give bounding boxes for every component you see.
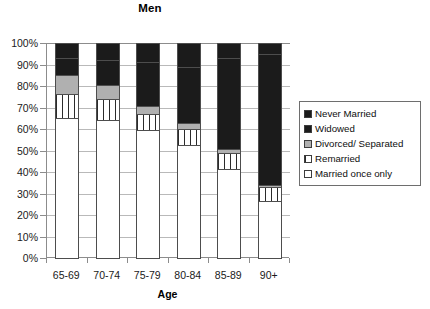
stacked-bar: [177, 43, 201, 258]
x-axis-tick: [127, 258, 128, 263]
legend-item-label: Remarried: [315, 154, 360, 164]
y-axis-label: 50%: [0, 145, 38, 157]
bar-segment: [258, 43, 282, 55]
x-axis-tick: [87, 258, 88, 263]
legend-item-label: Divorced/ Separated: [315, 139, 403, 149]
bar-segment: [177, 67, 201, 124]
x-axis-tick: [249, 258, 250, 263]
stacked-bar: [55, 43, 79, 258]
bar-segment: [96, 99, 120, 122]
legend-item[interactable]: Married once only: [304, 166, 417, 181]
plot-area: 0%10%20%30%40%50%60%70%80%90%100%: [46, 43, 289, 258]
legend-item[interactable]: Widowed: [304, 121, 417, 136]
y-axis-tick: [40, 65, 46, 66]
bar-segment: [136, 106, 160, 115]
y-axis-label: 30%: [0, 188, 38, 200]
y-axis-tick: [40, 194, 46, 195]
bar-segment: [258, 54, 282, 186]
bar-segment: [177, 145, 201, 259]
legend-item-label: Widowed: [315, 124, 355, 134]
bar-segment: [217, 153, 241, 170]
x-axis-title: Age: [46, 288, 289, 300]
legend-item[interactable]: Never Married: [304, 106, 417, 121]
bar-segment: [177, 129, 201, 146]
bar-segment: [217, 169, 241, 259]
stacked-bar: [136, 43, 160, 258]
bar-segment: [258, 201, 282, 259]
bar-segment: [55, 118, 79, 259]
bar-segment: [177, 43, 201, 68]
y-axis-label: 20%: [0, 209, 38, 221]
chart-legend: Never MarriedWidowedDivorced/ SeparatedR…: [299, 101, 421, 186]
legend-item-label: Married once only: [315, 169, 392, 179]
y-axis-label: 90%: [0, 59, 38, 71]
y-axis-tick: [40, 86, 46, 87]
legend-item[interactable]: Remarried: [304, 151, 417, 166]
bar-segment: [96, 120, 120, 259]
x-axis-tick: [168, 258, 169, 263]
white-swatch-icon: [304, 170, 312, 178]
stacked-bar: [258, 43, 282, 258]
stacked-bar: [217, 43, 241, 258]
stacked-bar: [96, 43, 120, 258]
y-axis-tick: [40, 172, 46, 173]
gray-swatch-icon: [304, 140, 312, 148]
bar-segment: [55, 94, 79, 120]
bar-segment: [55, 58, 79, 76]
legend-item[interactable]: Divorced/ Separated: [304, 136, 417, 151]
chart-title: Men: [0, 2, 300, 14]
bar-segment: [96, 60, 120, 86]
bar-segment: [136, 130, 160, 259]
y-axis-tick: [40, 43, 46, 44]
bar-segment: [96, 43, 120, 61]
y-axis-tick: [40, 129, 46, 130]
bar-segment: [217, 43, 241, 59]
y-axis-label: 80%: [0, 80, 38, 92]
bars-group: [47, 43, 290, 258]
x-axis-tick: [289, 258, 290, 263]
y-axis-tick: [40, 237, 46, 238]
vertical-lines-swatch-icon: [304, 155, 312, 163]
x-axis-tick: [46, 258, 47, 263]
bar-segment: [96, 85, 120, 100]
chart-container: Men 0%10%20%30%40%50%60%70%80%90%100% 65…: [0, 0, 430, 309]
bar-segment: [136, 62, 160, 107]
y-axis-tick: [40, 151, 46, 152]
x-axis-ticks: [46, 258, 289, 268]
y-axis-label: 0%: [0, 252, 38, 264]
y-axis-label: 40%: [0, 166, 38, 178]
bar-segment: [217, 58, 241, 150]
y-axis-tick: [40, 215, 46, 216]
y-axis-label: 70%: [0, 102, 38, 114]
black-swatch-icon: [304, 110, 312, 118]
bar-segment: [136, 43, 160, 63]
bar-segment: [55, 43, 79, 59]
bar-segment: [136, 114, 160, 131]
legend-item-label: Never Married: [315, 109, 376, 119]
dotted-dark-swatch-icon: [304, 125, 312, 133]
x-axis-category-label: 90+: [241, 269, 297, 281]
bar-segment: [258, 187, 282, 202]
y-axis-label: 10%: [0, 231, 38, 243]
y-axis-label: 100%: [0, 37, 38, 49]
bar-segment: [55, 75, 79, 94]
y-axis-tick: [40, 108, 46, 109]
x-axis-tick: [208, 258, 209, 263]
y-axis-label: 60%: [0, 123, 38, 135]
bar-segment: [177, 123, 201, 130]
